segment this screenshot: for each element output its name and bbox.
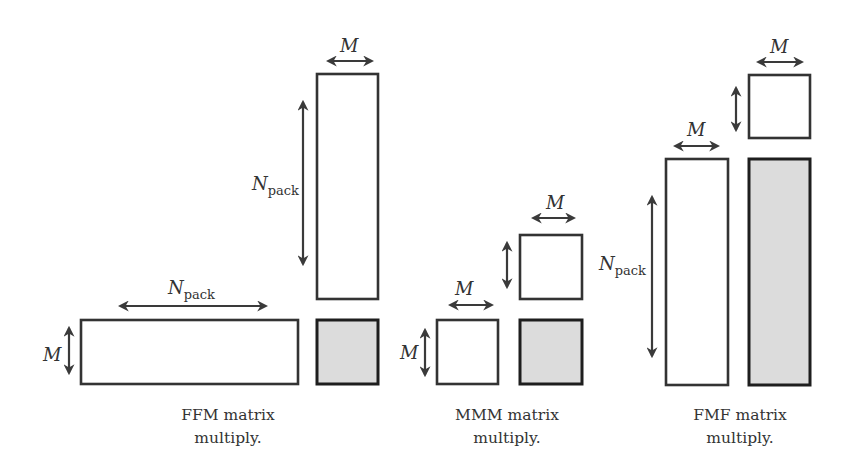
fmf-caption-line2: multiply. xyxy=(706,429,773,447)
fmf-tall-m-label: M xyxy=(686,119,706,140)
ffm-npack-vertical-label: Npack xyxy=(251,173,299,198)
fmf-top-matrix xyxy=(749,75,810,138)
fmf-result-matrix xyxy=(749,159,810,385)
ffm-wide-matrix xyxy=(81,320,298,384)
mmm-left-top-m-label: M xyxy=(454,278,474,299)
fmf-caption-line1: FMF matrix xyxy=(693,406,787,424)
fmf-panel: M M Npack FMF matrix multiply. xyxy=(598,36,810,447)
mmm-top-matrix xyxy=(520,235,582,299)
ffm-result-matrix xyxy=(317,320,378,384)
mmm-caption-line1: MMM matrix xyxy=(455,406,559,424)
fmf-top-m-label: M xyxy=(769,36,789,57)
mmm-left-matrix xyxy=(437,320,498,384)
ffm-left-m-label: M xyxy=(42,344,62,365)
fmf-tall-matrix xyxy=(666,159,728,385)
mmm-result-matrix xyxy=(520,320,582,384)
ffm-caption-line1: FFM matrix xyxy=(181,406,275,424)
fmf-npack-label: Npack xyxy=(598,253,646,278)
mmm-caption-line2: multiply. xyxy=(473,429,540,447)
matrix-multiply-diagram: M Npack Npack M FFM matrix multiply. M M xyxy=(0,0,853,472)
mmm-panel: M M M MMM matrix multiply. xyxy=(399,192,582,447)
mmm-left-m-label: M xyxy=(399,342,419,363)
mmm-top-m-label: M xyxy=(545,192,565,213)
ffm-tall-matrix xyxy=(317,74,378,299)
ffm-npack-horizontal-label: Npack xyxy=(167,277,215,302)
ffm-top-m-label: M xyxy=(339,35,359,56)
ffm-caption-line2: multiply. xyxy=(194,429,261,447)
ffm-panel: M Npack Npack M FFM matrix multiply. xyxy=(42,35,378,447)
